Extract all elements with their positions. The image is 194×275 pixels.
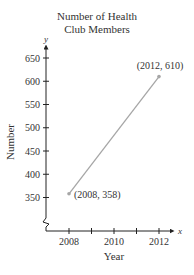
x-tick-label: 2008 (59, 236, 79, 247)
y-axis-label: Number (4, 124, 16, 160)
series-line (69, 77, 159, 194)
y-tick-label: 650 (25, 53, 40, 64)
y-tick-label: 550 (25, 99, 40, 110)
point-annotation: (2012, 610) (137, 60, 184, 72)
x-tick-label: 2012 (149, 236, 169, 247)
y-tick-label: 500 (25, 122, 40, 133)
y-tick-label: 450 (25, 146, 40, 157)
data-point (67, 192, 71, 196)
y-tick-label: 600 (25, 76, 40, 87)
point-annotation: (2008, 358) (74, 189, 121, 201)
x-axis-var: x (177, 226, 182, 236)
y-ticks: 350400450500550600650 (25, 53, 49, 204)
x-tick-label: 2010 (104, 236, 124, 247)
y-tick-label: 400 (25, 169, 40, 180)
data-series: (2008, 358)(2012, 610) (67, 60, 183, 201)
line-chart: y x 350400450500550600650 200820102012 (… (0, 0, 194, 275)
axis-break-icon (43, 218, 49, 231)
y-tick-label: 350 (25, 192, 40, 203)
x-axis-label: Year (104, 250, 125, 262)
data-point (157, 75, 161, 79)
y-axis-var: y (43, 34, 48, 44)
